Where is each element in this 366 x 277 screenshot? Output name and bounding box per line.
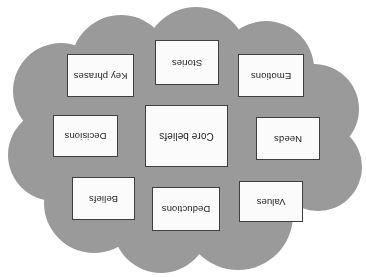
node-box-values: Values <box>239 181 303 222</box>
node-box-deductions: Deductions <box>152 187 220 231</box>
node-box-needs: Needs <box>256 117 320 160</box>
node-label-emotions: Emotions <box>251 70 291 81</box>
node-box-stories: Stories <box>155 40 219 85</box>
node-boxes-layer: Values Deductions Beliefs Needs Core bel… <box>0 0 366 277</box>
node-label-values: Values <box>257 196 286 207</box>
node-box-core-beliefs: Core beliefs <box>145 105 228 167</box>
node-label-key-phrases: Key phrases <box>74 70 128 81</box>
node-label-deductions: Deductions <box>162 204 211 215</box>
node-box-key-phrases: Key phrases <box>67 54 134 97</box>
node-label-decisions: Decisions <box>64 131 106 142</box>
node-label-needs: Needs <box>274 133 302 144</box>
node-box-beliefs: Beliefs <box>72 177 135 220</box>
node-label-stories: Stories <box>172 57 202 68</box>
node-box-emotions: Emotions <box>238 54 304 97</box>
diagram-canvas: Values Deductions Beliefs Needs Core bel… <box>0 0 366 277</box>
node-box-decisions: Decisions <box>53 115 118 157</box>
cloud-diagram-figure: Values Deductions Beliefs Needs Core bel… <box>0 0 366 277</box>
node-label-beliefs: Beliefs <box>89 193 118 204</box>
node-label-core-beliefs: Core beliefs <box>159 130 214 142</box>
